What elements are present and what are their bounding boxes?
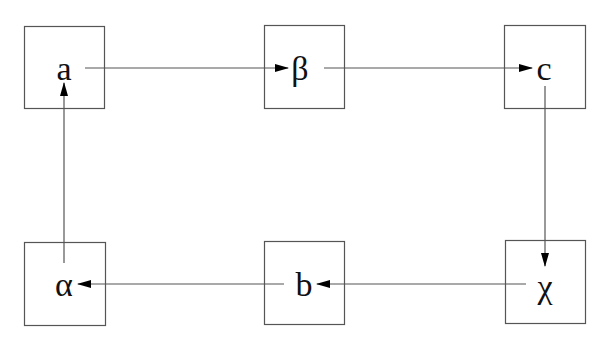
- node-label: α: [55, 266, 73, 303]
- edges-layer: [64, 68, 545, 284]
- node-beta: β: [265, 26, 345, 109]
- node-b: b: [265, 242, 345, 325]
- node-label: a: [56, 50, 71, 87]
- node-label: β: [291, 50, 308, 87]
- diagram-canvas: aβcαbχ: [0, 0, 609, 341]
- node-label: χ: [536, 268, 552, 305]
- node-label: c: [536, 50, 551, 87]
- node-label: b: [296, 266, 313, 303]
- nodes-layer: aβcαbχ: [25, 26, 586, 326]
